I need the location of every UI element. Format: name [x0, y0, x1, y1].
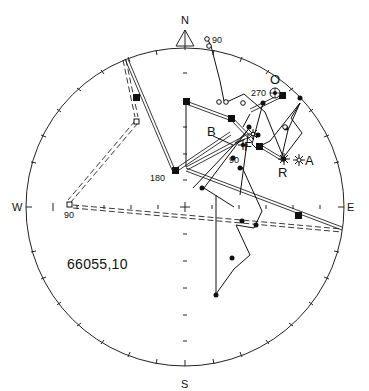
label-o: O	[270, 72, 280, 87]
label-f: F	[244, 139, 252, 154]
dashed-great-circles	[68, 60, 342, 232]
label-90-top: 90	[212, 35, 222, 45]
origin-target-icon	[270, 88, 280, 98]
compass-north: N	[181, 14, 189, 26]
label-b: B	[207, 124, 216, 139]
star-r-icon	[278, 153, 290, 165]
stereonet-diagram: N S E W 90 270 O B F 90 R A 180 90	[0, 0, 369, 391]
label-90-west: 90	[64, 210, 74, 220]
north-arrow-icon	[176, 30, 194, 50]
compass-east: E	[347, 201, 354, 213]
compass-south: S	[181, 378, 188, 390]
b-leader-line	[213, 136, 233, 145]
square-markers	[133, 92, 302, 219]
label-r: R	[278, 165, 287, 180]
star-a-icon	[293, 154, 305, 166]
double-line-paths	[125, 59, 342, 230]
label-a: A	[305, 153, 314, 168]
sample-caption: 66055,10	[67, 256, 128, 272]
label-270: 270	[251, 88, 266, 98]
label-90-mid: 90	[229, 155, 239, 165]
label-180: 180	[150, 173, 165, 183]
star-mid-icon	[248, 129, 258, 139]
compass-west: W	[12, 201, 23, 213]
